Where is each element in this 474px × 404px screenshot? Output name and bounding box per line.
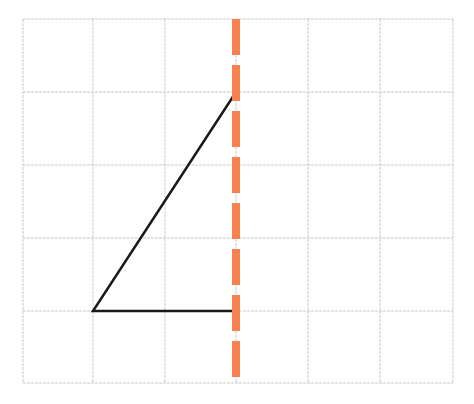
- reflection-grid-diagram: [0, 0, 474, 404]
